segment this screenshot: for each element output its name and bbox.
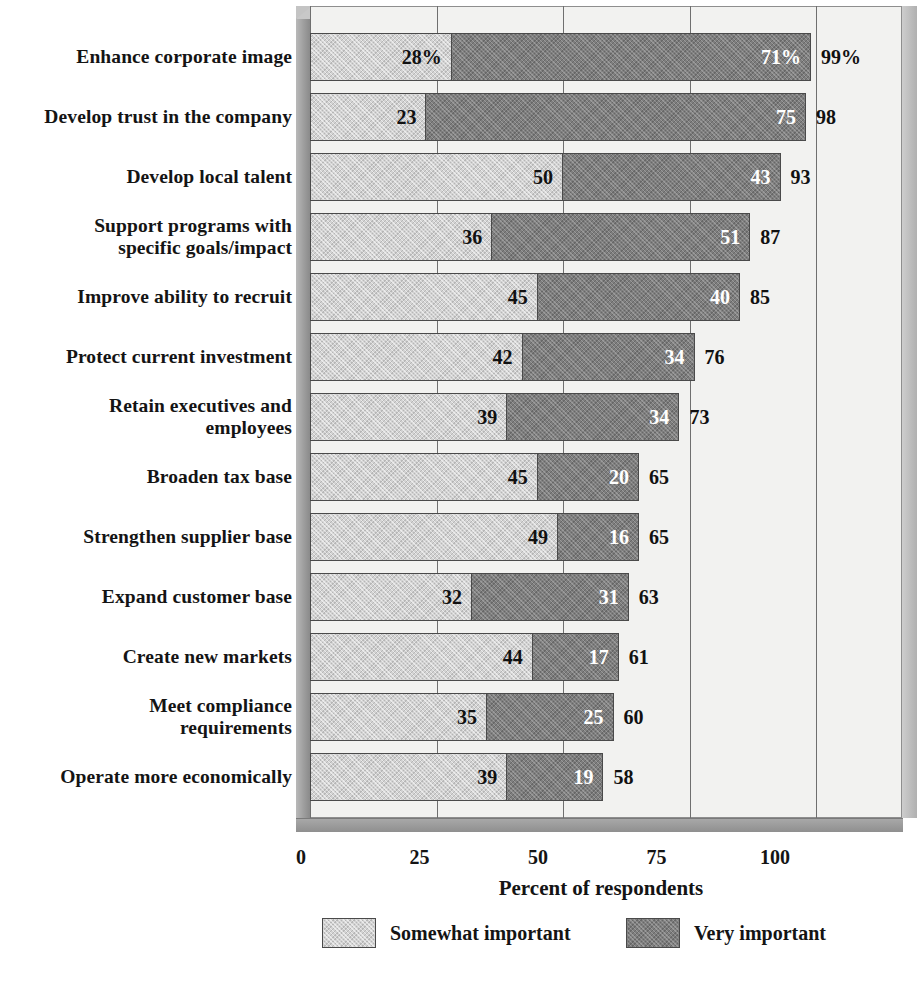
bar-segment-value: 75 — [776, 106, 805, 129]
bar-segment-very-important[interactable]: 25 — [486, 693, 614, 741]
bar-segment-very-important[interactable]: 43 — [562, 153, 781, 201]
category-label: Support programs withspecific goals/impa… — [0, 215, 292, 259]
bar-total-value: 65 — [641, 453, 669, 501]
bar-segment-somewhat-important[interactable]: 36 — [310, 213, 492, 261]
bar-row[interactable]: 4916 — [310, 513, 639, 561]
bar-segment-very-important[interactable]: 17 — [532, 633, 619, 681]
category-label: Strengthen supplier base — [0, 526, 292, 548]
bar-segment-very-important[interactable]: 31 — [471, 573, 629, 621]
bar-segment-value: 39 — [477, 406, 506, 429]
bar-segment-somewhat-important[interactable]: 32 — [310, 573, 472, 621]
bar-segment-somewhat-important[interactable]: 28% — [310, 33, 452, 81]
bar-segment-very-important[interactable]: 51 — [491, 213, 750, 261]
bar-segment-value: 19 — [573, 766, 602, 789]
bar-segment-somewhat-important[interactable]: 50 — [310, 153, 563, 201]
bar-segment-value: 17 — [589, 646, 618, 669]
category-label: Enhance corporate image — [0, 46, 292, 68]
category-label-column: Enhance corporate imageDevelop trust in … — [0, 0, 292, 820]
bar-row[interactable]: 4520 — [310, 453, 639, 501]
bar-segment-value: 44 — [503, 646, 532, 669]
bar-total-value: 63 — [631, 573, 659, 621]
category-label: Create new markets — [0, 646, 292, 668]
bar-segment-value: 39 — [477, 766, 506, 789]
bar-total-value: 93 — [783, 153, 811, 201]
bar-segment-value: 32 — [442, 586, 471, 609]
bar-segment-very-important[interactable]: 34 — [506, 393, 679, 441]
bar-segment-value: 16 — [609, 526, 638, 549]
bar-segment-very-important[interactable]: 75 — [425, 93, 806, 141]
bar-segment-somewhat-important[interactable]: 45 — [310, 273, 538, 321]
bar-segment-value: 49 — [528, 526, 557, 549]
category-label-line: Retain executives and — [0, 395, 292, 417]
category-label: Improve ability to recruit — [0, 286, 292, 308]
plot-area: 28%71%99%2375985043933651874540854234763… — [296, 6, 906, 840]
bar-segment-value: 42 — [493, 346, 522, 369]
bar-total-value: 76 — [697, 333, 725, 381]
bar-total-value: 98 — [808, 93, 836, 141]
bar-segment-somewhat-important[interactable]: 35 — [310, 693, 487, 741]
bar-row[interactable]: 4234 — [310, 333, 695, 381]
legend-swatch — [322, 918, 376, 948]
category-label: Protect current investment — [0, 346, 292, 368]
bar-segment-very-important[interactable]: 34 — [522, 333, 695, 381]
bar-row[interactable]: 4540 — [310, 273, 740, 321]
x-tick-label-0: 0 — [296, 846, 306, 869]
category-label-line: Enhance corporate image — [0, 46, 292, 68]
bar-segment-very-important[interactable]: 16 — [557, 513, 639, 561]
bar-segment-very-important[interactable]: 20 — [537, 453, 639, 501]
bar-segment-value: 51 — [720, 226, 749, 249]
bar-row[interactable]: 2375 — [310, 93, 806, 141]
bar-segment-somewhat-important[interactable]: 39 — [310, 753, 507, 801]
bar-segment-somewhat-important[interactable]: 49 — [310, 513, 558, 561]
bar-row[interactable]: 3525 — [310, 693, 614, 741]
bar-segment-value: 34 — [649, 406, 678, 429]
plot-frame-right — [902, 6, 917, 818]
bar-total-value: 60 — [616, 693, 644, 741]
bar-segment-somewhat-important[interactable]: 39 — [310, 393, 507, 441]
bar-total-value: 65 — [641, 513, 669, 561]
bar-row[interactable]: 3231 — [310, 573, 629, 621]
bar-total-value: 87 — [752, 213, 780, 261]
bar-row[interactable]: 3919 — [310, 753, 603, 801]
bar-segment-value: 31 — [599, 586, 628, 609]
bar-row[interactable]: 4417 — [310, 633, 619, 681]
bar-total-value: 58 — [605, 753, 633, 801]
bar-segment-value: 25 — [584, 706, 613, 729]
bar-segment-very-important[interactable]: 71% — [451, 33, 811, 81]
bar-segment-value: 71% — [761, 46, 810, 69]
category-label-line: Operate more economically — [0, 766, 292, 788]
bar-row[interactable]: 3651 — [310, 213, 750, 261]
bar-segment-somewhat-important[interactable]: 23 — [310, 93, 426, 141]
bar-row[interactable]: 5043 — [310, 153, 781, 201]
bar-segment-somewhat-important[interactable]: 44 — [310, 633, 533, 681]
bar-segment-value: 50 — [533, 166, 562, 189]
legend-item[interactable]: Somewhat important — [322, 918, 571, 948]
bar-row[interactable]: 3934 — [310, 393, 679, 441]
category-label-line: Expand customer base — [0, 586, 292, 608]
bar-segment-somewhat-important[interactable]: 42 — [310, 333, 523, 381]
category-label: Broaden tax base — [0, 466, 292, 488]
bar-total-value: 73 — [681, 393, 709, 441]
category-label: Develop trust in the company — [0, 106, 292, 128]
plot-frame-left-wall — [296, 18, 311, 830]
x-axis-title: Percent of respondents — [296, 876, 906, 901]
category-label-line: Broaden tax base — [0, 466, 292, 488]
category-label-line: Meet compliance — [0, 695, 292, 717]
category-label-line: requirements — [0, 717, 292, 739]
legend-swatch — [626, 918, 680, 948]
bar-segment-very-important[interactable]: 40 — [537, 273, 740, 321]
bar-segment-value: 43 — [751, 166, 780, 189]
x-tick-label-25: 25 — [410, 846, 430, 869]
bar-segment-value: 45 — [508, 286, 537, 309]
legend-label: Somewhat important — [390, 922, 571, 945]
category-label: Meet compliancerequirements — [0, 695, 292, 739]
legend-item[interactable]: Very important — [626, 918, 826, 948]
category-label-line: Develop trust in the company — [0, 106, 292, 128]
bar-segment-very-important[interactable]: 19 — [506, 753, 603, 801]
x-tick-label-100: 100 — [760, 846, 790, 869]
bar-segment-somewhat-important[interactable]: 45 — [310, 453, 538, 501]
bar-segment-value: 20 — [609, 466, 638, 489]
bar-row[interactable]: 28%71% — [310, 33, 811, 81]
bar-total-value: 85 — [742, 273, 770, 321]
chart-legend: Somewhat importantVery important — [296, 918, 916, 958]
